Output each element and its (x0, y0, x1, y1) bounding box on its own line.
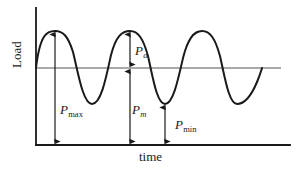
amplitude-label-subscript: a (143, 50, 147, 60)
x-axis-label: time (139, 150, 162, 163)
amplitude-label: Pa (135, 44, 147, 57)
maximum-load-label-subscript: max (68, 109, 83, 119)
mean-load-label: Pm (132, 103, 146, 116)
minimum-load-label: Pmin (175, 118, 196, 131)
amplitude-label-base: P (135, 43, 143, 58)
figure-canvas (0, 0, 301, 171)
y-axis-label: Load (10, 41, 23, 68)
minimum-load-label-base: P (175, 117, 183, 132)
maximum-load-label: Pmax (60, 103, 83, 116)
mean-load-label-subscript: m (140, 109, 146, 119)
mean-load-label-base: P (132, 102, 140, 117)
load-time-figure: Load time Pa Pmax Pm Pmin (0, 0, 301, 171)
maximum-load-label-base: P (60, 102, 68, 117)
minimum-load-label-subscript: min (183, 124, 196, 134)
